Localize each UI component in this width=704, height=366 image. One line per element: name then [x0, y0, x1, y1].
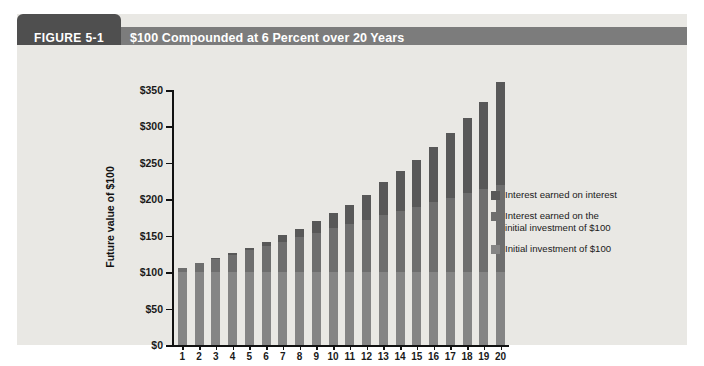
y-tick-mark: [166, 90, 172, 92]
bar-segment-interest-on-initial: [278, 242, 287, 273]
bar-segment-interest-on-initial: [228, 255, 237, 272]
y-tick-mark: [166, 163, 172, 165]
x-tick-label: 15: [411, 351, 422, 362]
bar-segment-initial-investment: [362, 272, 371, 345]
bar-segment-initial-investment: [312, 272, 321, 345]
x-tick-mark: [350, 345, 352, 350]
x-tick-mark: [199, 345, 201, 350]
bar-segment-initial-investment: [429, 272, 438, 345]
x-tick-label: 17: [445, 351, 456, 362]
bar-segment-interest-on-initial: [245, 250, 254, 272]
bar-column: [329, 213, 338, 345]
x-tick-mark: [266, 345, 268, 350]
x-tick-label: 10: [328, 351, 339, 362]
bar-column: [245, 248, 254, 345]
bar-segment-initial-investment: [479, 272, 488, 345]
legend-label: Interest earned on interest: [505, 189, 617, 201]
x-tick-mark: [417, 345, 419, 350]
bar-segment-interest-on-initial: [463, 193, 472, 272]
bar-segment-initial-investment: [178, 272, 187, 345]
x-tick-label: 5: [247, 351, 253, 362]
y-tick-mark: [166, 236, 172, 238]
x-tick-mark: [249, 345, 251, 350]
y-tick-label: $200: [140, 193, 163, 205]
y-axis-title: Future value of $100: [104, 166, 116, 268]
bar-column: [446, 133, 455, 345]
legend-swatch: [491, 191, 500, 200]
bar-column: [412, 160, 421, 345]
bar-column: [429, 147, 438, 345]
x-tick-mark: [300, 345, 302, 350]
y-tick-label: $250: [140, 157, 163, 169]
y-tick-label: $300: [140, 120, 163, 132]
y-tick-mark: [166, 126, 172, 128]
bar-column: [262, 242, 271, 345]
bar-segment-initial-investment: [396, 272, 405, 345]
legend-item: Initial investment of $100: [491, 243, 676, 255]
bar-column: [396, 171, 405, 345]
bar-segment-interest-on-initial: [362, 220, 371, 272]
x-tick-mark: [467, 345, 469, 350]
x-tick-label: 3: [213, 351, 219, 362]
y-tick-label: $50: [145, 303, 163, 315]
y-tick-label: $0: [151, 339, 163, 351]
x-tick-label: 11: [345, 351, 356, 362]
bar-segment-interest-on-initial: [345, 224, 354, 272]
x-tick-label: 2: [196, 351, 202, 362]
bar-column: [278, 235, 287, 345]
x-tick-label: 16: [428, 351, 439, 362]
bar-column: [178, 268, 187, 345]
x-tick-mark: [182, 345, 184, 350]
bar-segment-initial-investment: [278, 272, 287, 345]
x-tick-label: 7: [280, 351, 286, 362]
x-tick-mark: [501, 345, 503, 350]
bar-segment-interest-on-interest: [463, 118, 472, 193]
x-tick-label: 20: [495, 351, 506, 362]
bar-segment-initial-investment: [195, 272, 204, 345]
figure-number: FIGURE 5-1: [34, 31, 104, 45]
figure-tab-shape: [17, 14, 121, 28]
bar-column: [379, 182, 388, 345]
bar-segment-initial-investment: [463, 272, 472, 345]
bar-segment-interest-on-initial: [446, 198, 455, 272]
bar-segment-interest-on-interest: [429, 147, 438, 202]
x-tick-mark: [283, 345, 285, 350]
bar-segment-interest-on-initial: [295, 237, 304, 272]
x-tick-mark: [216, 345, 218, 350]
x-tick-mark: [450, 345, 452, 350]
x-tick-mark: [484, 345, 486, 350]
x-tick-mark: [333, 345, 335, 350]
legend-label: Interest earned on the initial investmen…: [505, 210, 611, 234]
bar-column: [195, 263, 204, 345]
bar-segment-initial-investment: [211, 272, 220, 345]
bar-segment-interest-on-initial: [379, 215, 388, 272]
chart-legend: Interest earned on interestInterest earn…: [491, 189, 676, 264]
bar-segment-initial-investment: [329, 272, 338, 345]
x-tick-label: 9: [314, 351, 320, 362]
legend-swatch: [491, 212, 500, 221]
figure-screenshot: FIGURE 5-1 $100 Compounded at 6 Percent …: [0, 0, 704, 366]
figure-panel: FIGURE 5-1 $100 Compounded at 6 Percent …: [17, 14, 687, 345]
y-tick-mark: [166, 345, 172, 347]
y-tick-mark: [166, 199, 172, 201]
bar-segment-interest-on-interest: [479, 102, 488, 189]
bar-segment-initial-investment: [245, 272, 254, 345]
bar-segment-interest-on-initial: [329, 228, 338, 272]
y-tick-mark: [166, 309, 172, 311]
bar-segment-interest-on-interest: [329, 213, 338, 228]
figure-body: $0$50$100$150$200$250$300$350 Future val…: [17, 45, 687, 345]
bar-segment-initial-investment: [379, 272, 388, 345]
bar-segment-interest-on-interest: [312, 221, 321, 233]
bar-segment-interest-on-initial: [312, 233, 321, 272]
y-tick-label: $100: [140, 266, 163, 278]
bar-column: [295, 229, 304, 345]
y-tick-mark: [166, 272, 172, 274]
bar-segment-interest-on-initial: [479, 189, 488, 272]
bar-segment-initial-investment: [228, 272, 237, 345]
x-axis-line: [172, 345, 509, 347]
x-tick-label: 13: [378, 351, 389, 362]
x-tick-mark: [316, 345, 318, 350]
bar-segment-interest-on-initial: [195, 263, 204, 272]
legend-item: Interest earned on interest: [491, 189, 676, 201]
legend-item: Interest earned on the initial investmen…: [491, 210, 676, 234]
